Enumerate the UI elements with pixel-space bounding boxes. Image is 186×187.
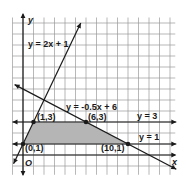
x-axis-label: x	[171, 157, 178, 167]
vertex-point	[31, 120, 36, 125]
point-label-1-3: (1,3)	[37, 112, 56, 122]
line-label-y-1: y = 1	[139, 132, 159, 142]
line-label-2x-plus-1: y = 2x + 1	[28, 39, 69, 49]
point-label-0-1: (0,1)	[25, 143, 44, 153]
point-label-10-1: (10,1)	[101, 143, 125, 153]
line-label-y-3: y = 3	[137, 111, 157, 121]
constraint-line-arrow-start-icon	[13, 142, 18, 147]
y-axis-label: y	[27, 15, 34, 25]
y-axis-arrow-up-icon	[21, 13, 26, 18]
line-label-neg-half-x-plus-6: y = -0.5x + 6	[66, 102, 117, 112]
y-axis-arrow-down-icon	[21, 171, 26, 176]
linear-programming-graph: y x O y = 2x + 1 y = -0.5x + 6 y = 3 y =…	[0, 0, 186, 187]
constraint-line-arrow-end-icon	[171, 120, 176, 125]
origin-label: O	[25, 158, 32, 168]
constraint-line-arrow-start-icon	[13, 120, 18, 125]
constraint-line-arrow-end-icon	[171, 142, 176, 147]
point-label-6-3: (6,3)	[88, 112, 107, 122]
vertex-point	[126, 142, 131, 147]
